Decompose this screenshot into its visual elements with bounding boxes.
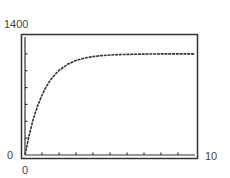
- plot-area: [0, 0, 230, 178]
- data-line: [25, 54, 195, 155]
- axis-ticks: [25, 54, 178, 155]
- outer-frame: [22, 35, 198, 159]
